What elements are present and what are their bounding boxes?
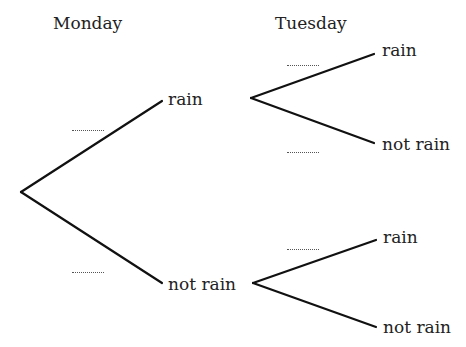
probability-blank-tue-notrain-rain[interactable] — [287, 249, 319, 250]
probability-blank-monday-rain[interactable] — [72, 130, 104, 131]
branch-tue-notrain-not-rain — [253, 283, 376, 327]
probability-blank-tue-rain-not-rain[interactable] — [287, 152, 319, 153]
branch-monday-not-rain — [21, 192, 162, 283]
probability-blank-tue-rain-rain[interactable] — [287, 65, 319, 66]
branch-monday-rain — [21, 101, 162, 192]
header-tuesday: Tuesday — [275, 15, 347, 32]
tree-diagram: Monday Tuesday rain not rain rain not ra… — [0, 0, 466, 347]
label-tue-notrain-rain: rain — [383, 229, 418, 246]
label-tue-rain-rain: rain — [382, 42, 417, 59]
branch-tue-rain-rain — [251, 54, 374, 98]
label-monday-not-rain: not rain — [168, 276, 236, 293]
label-tue-notrain-not-rain: not rain — [383, 319, 451, 336]
header-monday: Monday — [53, 15, 122, 32]
branch-tue-rain-not-rain — [251, 98, 374, 143]
label-tue-rain-not-rain: not rain — [382, 136, 450, 153]
probability-blank-monday-not-rain[interactable] — [72, 272, 104, 273]
label-monday-rain: rain — [168, 91, 203, 108]
branch-tue-notrain-rain — [253, 240, 376, 283]
